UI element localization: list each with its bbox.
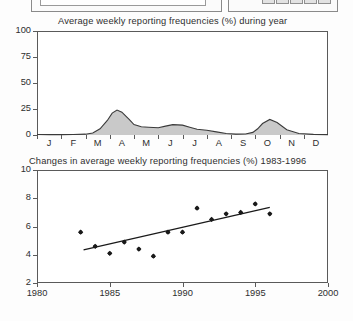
toolbar-cell-1[interactable] <box>262 0 275 4</box>
seasonal-xtick-mark <box>134 135 135 139</box>
seasonal-xtick-mark <box>207 135 208 139</box>
seasonal-xtick-mark <box>37 135 38 139</box>
trend-ytick-mark <box>33 255 38 256</box>
trend-ytick-mark <box>33 198 38 199</box>
trend-xtick-label: 1990 <box>165 288 201 298</box>
seasonal-area-fill <box>37 110 328 135</box>
trend-data-point-core <box>79 230 83 234</box>
trend-ytick-mark <box>33 227 38 228</box>
seasonal-month-label: J <box>185 138 205 148</box>
trend-data-point-core <box>137 247 141 251</box>
trend-data-point-core <box>152 254 156 258</box>
seasonal-area-chart: Average weekly reporting frequencies (%)… <box>0 14 353 156</box>
trend-plot-area <box>37 170 328 283</box>
seasonal-xtick-mark <box>110 135 111 139</box>
toolbar-panel-right <box>228 0 338 12</box>
seasonal-xtick-mark <box>280 135 281 139</box>
seasonal-xtick-mark <box>183 135 184 139</box>
toolbar-button-group <box>262 0 331 4</box>
trend-chart-title: Changes in average weekly reporting freq… <box>29 156 306 166</box>
trend-ytick-label: 10 <box>5 164 31 174</box>
seasonal-ytick-label: 0 <box>5 129 31 139</box>
seasonal-xtick-mark <box>255 135 256 139</box>
trend-data-point-core <box>195 206 199 210</box>
seasonal-ytick-mark <box>33 83 38 84</box>
seasonal-xtick-mark <box>61 135 62 139</box>
toolbar-text-field[interactable] <box>40 0 206 6</box>
trend-scatter-svg <box>37 170 328 283</box>
trend-data-point-core <box>181 230 185 234</box>
trend-ytick-label: 6 <box>5 221 31 231</box>
toolbar-cell-4[interactable] <box>304 0 317 4</box>
trend-scatter-chart: Changes in average weekly reporting freq… <box>0 155 353 321</box>
trend-xtick-label: 1995 <box>237 288 273 298</box>
trend-data-point-core <box>253 202 257 206</box>
toolbar-cell-5[interactable] <box>318 0 331 4</box>
trend-xtick-label: 1980 <box>19 288 55 298</box>
seasonal-month-label: A <box>112 138 132 148</box>
trend-xtick-mark <box>255 283 256 287</box>
seasonal-month-label: J <box>160 138 180 148</box>
seasonal-month-label: O <box>257 138 277 148</box>
trend-data-points <box>78 201 272 258</box>
toolbar-cell-3[interactable] <box>290 0 303 4</box>
trend-xtick-label: 2000 <box>310 288 346 298</box>
scanned-figure-page: Average weekly reporting frequencies (%)… <box>0 0 353 321</box>
seasonal-area-svg <box>37 31 328 135</box>
seasonal-xtick-mark <box>158 135 159 139</box>
trend-ytick-label: 2 <box>5 277 31 287</box>
seasonal-month-label: D <box>306 138 326 148</box>
trend-ytick-label: 8 <box>5 192 31 202</box>
trend-xtick-mark <box>328 283 329 287</box>
seasonal-plot-area <box>37 31 328 135</box>
seasonal-month-label: N <box>282 138 302 148</box>
toolbar-cell-2[interactable] <box>276 0 289 4</box>
seasonal-ytick-mark <box>33 57 38 58</box>
trend-regression-line <box>84 207 270 249</box>
seasonal-chart-title: Average weekly reporting frequencies (%)… <box>58 16 287 26</box>
seasonal-ytick-label: 75 <box>5 51 31 61</box>
trend-data-point-core <box>268 212 272 216</box>
trend-data-point-core <box>224 212 228 216</box>
seasonal-xtick-mark <box>86 135 87 139</box>
seasonal-month-label: F <box>63 138 83 148</box>
trend-ytick-mark <box>33 170 38 171</box>
trend-xtick-mark <box>110 283 111 287</box>
seasonal-ytick-mark <box>33 109 38 110</box>
trend-xtick-mark <box>183 283 184 287</box>
trend-xtick-label: 1985 <box>92 288 128 298</box>
seasonal-ytick-label: 50 <box>5 77 31 87</box>
toolbar-panel-left <box>31 0 222 12</box>
seasonal-month-label: S <box>233 138 253 148</box>
trend-xtick-mark <box>37 283 38 287</box>
seasonal-ytick-label: 25 <box>5 103 31 113</box>
seasonal-xtick-mark <box>304 135 305 139</box>
seasonal-month-label: J <box>39 138 59 148</box>
seasonal-month-label: A <box>209 138 229 148</box>
seasonal-month-label: M <box>136 138 156 148</box>
trend-data-point-core <box>108 251 112 255</box>
seasonal-xtick-mark <box>231 135 232 139</box>
seasonal-month-label: M <box>88 138 108 148</box>
toolbar-strip <box>0 0 353 12</box>
seasonal-ytick-label: 100 <box>5 25 31 35</box>
seasonal-ytick-mark <box>33 31 38 32</box>
trend-ytick-label: 4 <box>5 249 31 259</box>
